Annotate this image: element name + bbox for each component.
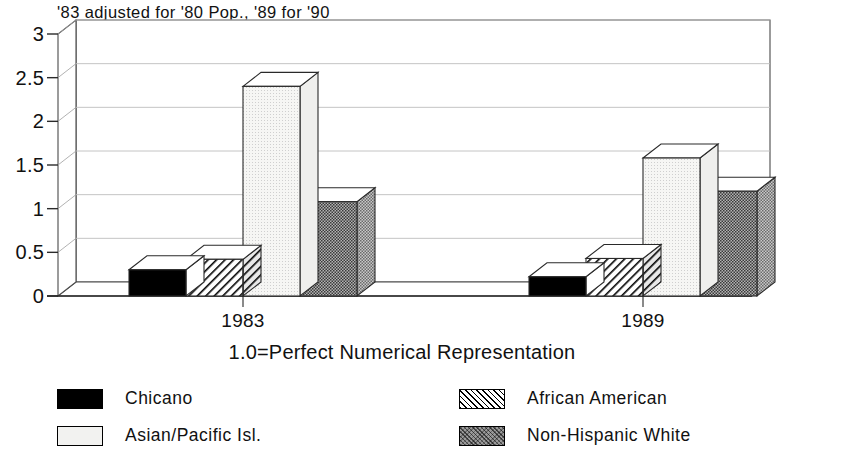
y-axis-tick-label: 2.5 xyxy=(10,68,44,88)
x-axis-caption: 1.0=Perfect Numerical Representation xyxy=(0,341,852,364)
y-axis-tick-label: 1.5 xyxy=(10,155,44,175)
legend-swatch-black xyxy=(57,389,103,409)
legend-label: Chicano xyxy=(125,388,193,409)
y-axis-tick-label: 0 xyxy=(10,286,44,306)
bar xyxy=(529,263,604,296)
legend-item: African American xyxy=(459,388,667,409)
x-axis-tick-label: 1983 xyxy=(221,311,264,330)
x-axis-caption-text: 1.0=Perfect Numerical Representation xyxy=(229,341,576,364)
legend-swatch-dark xyxy=(459,426,505,446)
bar xyxy=(129,256,204,296)
y-axis-tick-label: 2 xyxy=(10,111,44,131)
legend-swatch-light xyxy=(57,426,103,446)
legend-label: Non-Hispanic White xyxy=(527,425,691,446)
chart-canvas xyxy=(0,0,852,330)
legend-item: Asian/Pacific Isl. xyxy=(57,425,261,446)
legend-label: Asian/Pacific Isl. xyxy=(125,425,261,446)
y-axis-tick-label: 0.5 xyxy=(10,242,44,262)
legend-label: African American xyxy=(527,388,667,409)
y-axis-tick-label: 1 xyxy=(10,199,44,219)
legend-item: Non-Hispanic White xyxy=(459,425,691,446)
legend-swatch-hatch xyxy=(459,389,505,409)
chart-legend: ChicanoAfrican AmericanAsian/Pacific Isl… xyxy=(0,388,852,462)
plot-area xyxy=(0,0,852,330)
legend-item: Chicano xyxy=(57,388,193,409)
x-axis-tick-label: 1989 xyxy=(621,311,664,330)
y-axis-tick-label: 3 xyxy=(10,24,44,44)
y-axis-tick-labels: 00.511.522.53 xyxy=(0,0,44,330)
